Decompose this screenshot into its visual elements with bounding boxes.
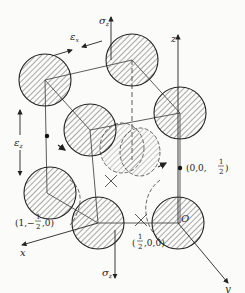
stress-bottom-label: σz (102, 267, 113, 279)
y-axis (178, 223, 228, 283)
strain-z-label: εz (14, 137, 23, 149)
displacement-arrow (58, 145, 65, 150)
fraction-numerator: 1 (138, 233, 142, 241)
x-axis-label: x (20, 247, 26, 258)
fraction-numerator: 1 (219, 158, 223, 166)
z-axis-label: z (170, 33, 177, 44)
coord-close: ,0,0) (144, 238, 165, 248)
atom-top-right (154, 87, 206, 139)
atom-bottom-left (24, 167, 76, 219)
coord-open: ( (132, 238, 136, 248)
cross-icon (105, 175, 117, 187)
displacement-arrow (158, 163, 166, 167)
coord-close: ,0) (42, 218, 54, 228)
point-dot (45, 134, 49, 138)
svg-text:σz: σz (102, 267, 113, 279)
fraction-numerator: 1 (36, 213, 40, 221)
epsilon-subscript: z (18, 142, 23, 149)
svg-text:εx: εx (70, 31, 79, 43)
stress-top-label: σz (99, 15, 110, 27)
strain-x-label: εx (70, 31, 79, 43)
sigma-subscript: z (105, 20, 110, 27)
atom-middle (64, 104, 116, 156)
unit-cell-diagram: z y x O σz σz εx εz (0,0, 1 2 ) (1,− 1 2… (0, 0, 245, 293)
origin-label: O (181, 213, 189, 224)
sigma-subscript: z (108, 272, 113, 279)
fraction-denominator: 2 (36, 223, 40, 231)
svg-text:εz: εz (14, 137, 23, 149)
displaced-atom (120, 128, 160, 176)
atom-top-left (19, 54, 71, 106)
coord-open: (1,− (15, 218, 35, 228)
coord-close: ) (225, 163, 229, 173)
y-axis-label: y (224, 283, 231, 293)
fraction-denominator: 2 (219, 168, 223, 176)
strain-x-arrow-left (52, 50, 72, 56)
fraction-denominator: 2 (138, 243, 142, 251)
point-dot (178, 166, 182, 170)
epsilon-subscript: x (75, 36, 79, 43)
point-0-0-half-label: (0,0, 1 2 ) (186, 158, 229, 176)
strain-x-arrow-right (82, 41, 102, 47)
coord-open: (0,0, (186, 163, 207, 173)
cross-icon (135, 214, 147, 226)
svg-text:σz: σz (99, 15, 110, 27)
atom-top-center (106, 34, 158, 86)
